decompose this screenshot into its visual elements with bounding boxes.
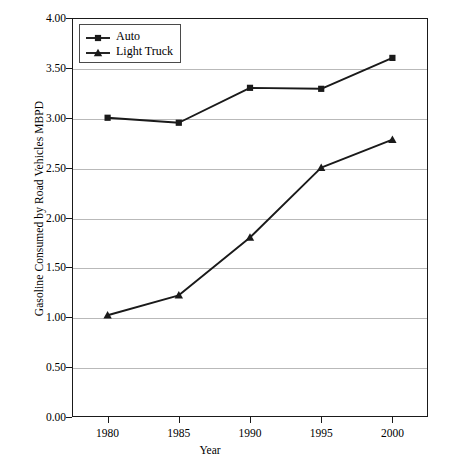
y-tick-label: 0.00 <box>26 411 66 423</box>
x-axis-title-label: Year <box>199 444 220 456</box>
x-tick-mark <box>321 417 322 423</box>
y-tick-label: 1.50 <box>26 261 66 273</box>
gridline <box>73 318 427 319</box>
x-tick-mark <box>392 417 393 423</box>
gridline <box>73 69 427 70</box>
legend-item-label: Auto <box>116 30 140 42</box>
gridline <box>73 119 427 120</box>
y-tick-label: 0.50 <box>26 361 66 373</box>
x-tick-mark <box>108 417 109 423</box>
x-tick-label: 1995 <box>310 427 333 439</box>
gridline <box>73 268 427 269</box>
legend-item-label: Light Truck <box>116 45 173 57</box>
x-tick-label: 2000 <box>381 427 404 439</box>
line-chart: Gasoline Consumed by Road Vehicles MBPD … <box>0 0 450 467</box>
gridline <box>73 219 427 220</box>
legend-item: Auto <box>85 28 173 43</box>
y-tick-label: 3.00 <box>26 112 66 124</box>
legend-item: Light Truck <box>85 43 173 58</box>
plot-area <box>72 18 428 417</box>
y-tick-label: 3.50 <box>26 62 66 74</box>
y-tick-label: 1.00 <box>26 311 66 323</box>
y-tick-label: 2.00 <box>26 212 66 224</box>
y-axis-title-label: Gasoline Consumed by Road Vehicles MBPD <box>33 101 45 316</box>
y-tick-label: 2.50 <box>26 162 66 174</box>
legend-square-marker-icon <box>85 30 111 42</box>
x-tick-label: 1985 <box>167 427 190 439</box>
legend-triangle-marker-icon <box>85 45 111 57</box>
x-tick-label: 1990 <box>239 427 262 439</box>
x-tick-label: 1980 <box>96 427 119 439</box>
y-tick-mark <box>66 417 72 418</box>
y-tick-label: 4.00 <box>26 12 66 24</box>
x-tick-mark <box>179 417 180 423</box>
chart-legend: AutoLight Truck <box>79 24 181 63</box>
x-tick-mark <box>250 417 251 423</box>
x-axis-title: Year <box>0 444 450 456</box>
gridline <box>73 169 427 170</box>
gridline <box>73 368 427 369</box>
